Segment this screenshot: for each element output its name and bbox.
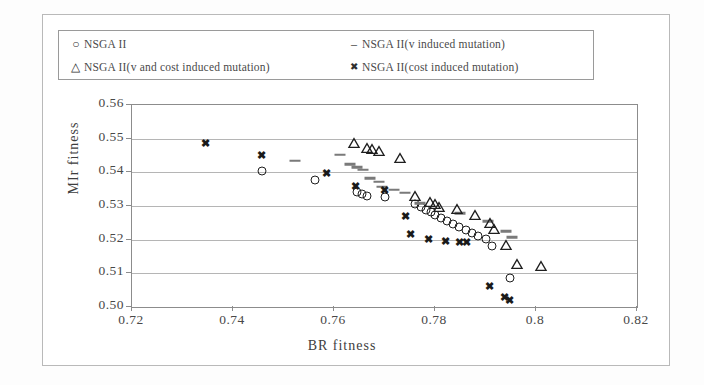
y-tick-mark [126,205,131,206]
gridline [132,206,637,207]
legend-label: NSGA II(v induced mutation) [362,38,505,50]
data-point-triangle [434,202,445,212]
data-point-x: ✖ [201,137,210,148]
data-point-x: ✖ [380,184,389,195]
gridline [132,240,637,241]
y-tick-label: 0.53 [98,196,124,212]
data-point-dash [335,154,346,157]
legend-item-cost-induced: ✖ NSGA II(cost induced mutation) [347,61,518,73]
data-point-x: ✖ [485,281,494,292]
x-tick-mark [535,306,536,311]
y-tick-label: 0.52 [98,230,124,246]
data-point-x: ✖ [322,168,331,179]
data-point-circle [362,192,371,201]
gridline [132,172,637,173]
x-axis-label: BR fitness [0,338,704,354]
y-tick-label: 0.55 [98,129,124,145]
legend-label: NSGA II(cost induced mutation) [362,61,518,73]
y-tick-mark [126,239,131,240]
x-tick-mark [636,306,637,311]
data-point-triangle [536,261,547,271]
data-point-circle [487,241,496,250]
data-point-dash [500,230,511,233]
x-tick-label: 0.76 [320,312,346,328]
data-point-x: ✖ [505,294,514,305]
data-point-triangle [511,259,522,269]
x-tick-mark [333,306,334,311]
x-tick-label: 0.8 [526,312,544,328]
y-tick-label: 0.51 [98,263,124,279]
plot-area: ✖✖✖✖✖✖✖✖✖✖✖✖✖✖ [131,104,638,308]
x-marker-icon: ✖ [347,61,361,73]
data-point-circle [257,166,266,175]
data-point-x: ✖ [406,228,415,239]
data-point-triangle [394,153,405,163]
y-tick-label: 0.54 [98,162,124,178]
data-point-dash [357,168,368,171]
x-tick-label: 0.78 [421,312,447,328]
data-point-circle [505,274,514,283]
data-point-triangle [470,210,481,220]
y-tick-mark [126,171,131,172]
dash-marker-icon: – [347,38,361,50]
legend-row-2: △ NSGA II(v and cost induced mutation) ✖… [59,55,593,79]
data-point-triangle [500,240,511,250]
gridline [132,273,637,274]
data-point-dash [365,177,376,180]
data-point-triangle [488,224,499,234]
legend-item-v-induced: – NSGA II(v induced mutation) [347,38,505,50]
legend: ○ NSGA II – NSGA II(v induced mutation) … [58,30,594,80]
y-tick-mark [126,138,131,139]
x-tick-mark [232,306,233,311]
data-point-x: ✖ [441,236,450,247]
x-tick-mark [131,306,132,311]
y-tick-mark [126,272,131,273]
y-tick-label: 0.56 [98,95,124,111]
x-tick-mark [434,306,435,311]
figure-container: ○ NSGA II – NSGA II(v induced mutation) … [0,0,704,385]
data-point-dash [290,160,301,163]
data-point-triangle [451,204,462,214]
data-point-circle [310,176,319,185]
data-point-x: ✖ [351,180,360,191]
data-point-x: ✖ [424,233,433,244]
x-tick-label: 0.82 [623,312,649,328]
data-point-x: ✖ [462,237,471,248]
data-point-dash [506,236,517,239]
data-point-triangle [409,191,420,201]
y-tick-mark [126,104,131,105]
x-axis-ticks: 0.720.740.760.780.80.82 [0,312,704,336]
x-tick-label: 0.74 [219,312,245,328]
data-point-triangle [374,146,385,156]
data-point-dash [388,189,399,192]
data-point-x: ✖ [257,149,266,160]
y-axis-label: MIr fitness [66,78,82,238]
data-point-x: ✖ [401,211,410,222]
legend-row-1: ○ NSGA II – NSGA II(v induced mutation) [59,32,593,56]
x-tick-label: 0.72 [118,312,144,328]
data-point-triangle [349,138,360,148]
y-tick-label: 0.50 [98,297,124,313]
x-axis-label-text: BR fitness [308,338,377,354]
